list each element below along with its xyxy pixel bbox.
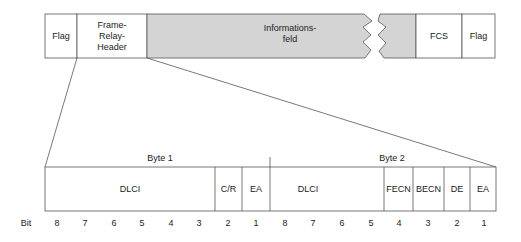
bit-number: 2 <box>221 218 235 229</box>
field-de: DE <box>444 167 470 211</box>
bit-number: 5 <box>364 218 378 229</box>
field-dlci-low: DLCI <box>270 167 346 211</box>
info-field-right <box>378 14 416 58</box>
bit-row-label: Bit <box>14 218 38 229</box>
header-label-line1: Frame- <box>98 20 127 31</box>
bit-number: 7 <box>78 218 92 229</box>
info-label-line1: Informations- <box>264 23 317 34</box>
header-label-line2: Relay- <box>99 31 125 42</box>
flag-end-label: Flag <box>462 14 495 58</box>
bit-number: 4 <box>164 218 178 229</box>
header-label: Frame- Relay- Header <box>77 14 147 58</box>
field-fecn: FECN <box>384 167 413 211</box>
header-label-line3: Header <box>97 42 127 53</box>
bit-number: 5 <box>135 218 149 229</box>
info-label-line2: feld <box>283 34 298 45</box>
bit-number: 6 <box>107 218 121 229</box>
bit-number: 8 <box>278 218 292 229</box>
byte2-label: Byte 2 <box>362 153 422 164</box>
bit-number: 7 <box>306 218 320 229</box>
bit-number: 1 <box>477 218 491 229</box>
info-field-label: Informations- feld <box>240 14 340 54</box>
expand-line-right <box>147 58 496 167</box>
bit-number: 3 <box>192 218 206 229</box>
bit-number: 4 <box>392 218 406 229</box>
field-cr: C/R <box>215 167 242 211</box>
field-dlci-high: DLCI <box>45 167 215 211</box>
bit-number: 3 <box>421 218 435 229</box>
expand-line-left <box>45 58 77 167</box>
fcs-label: FCS <box>416 14 462 58</box>
field-ea-byte1: EA <box>242 167 270 211</box>
field-becn: BECN <box>413 167 444 211</box>
bit-number: 1 <box>249 218 263 229</box>
flag-start-label: Flag <box>45 14 77 58</box>
bit-number: 6 <box>335 218 349 229</box>
bit-number: 8 <box>50 218 64 229</box>
field-ea-byte2: EA <box>470 167 496 211</box>
byte1-label: Byte 1 <box>130 153 190 164</box>
bit-number: 2 <box>450 218 464 229</box>
